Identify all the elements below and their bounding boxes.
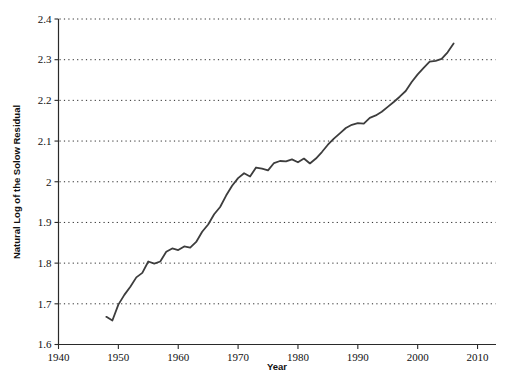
y-tick-label: 1.7: [38, 298, 52, 310]
x-axis-title: Year: [267, 361, 287, 372]
y-tick-label: 1.6: [38, 338, 52, 350]
y-tick-label: 1.9: [38, 216, 52, 228]
x-tick-label: 1990: [347, 351, 370, 363]
y-tick-label: 2.3: [38, 53, 52, 65]
y-axis-title: Natural Log of the Solow Residual: [11, 105, 22, 259]
x-tick-label: 1980: [287, 351, 310, 363]
x-tick-label: 1950: [107, 351, 130, 363]
y-tick-label: 2: [46, 176, 52, 188]
x-tick-label: 1960: [167, 351, 190, 363]
y-tick-label: 1.8: [38, 257, 52, 269]
chart-canvas: 1.61.71.81.922.12.22.32.4 19401950196019…: [0, 0, 512, 384]
x-tick-label: 1940: [48, 351, 71, 363]
solow-residual-chart-figure: 1.61.71.81.922.12.22.32.4 19401950196019…: [0, 0, 512, 384]
y-tick-label: 2.4: [38, 13, 52, 25]
x-tick-label: 2000: [407, 351, 430, 363]
y-tick-label: 2.1: [38, 135, 52, 147]
x-tick-label: 1970: [227, 351, 250, 363]
chart-background: [0, 0, 512, 384]
x-tick-label: 2010: [467, 351, 490, 363]
y-tick-label: 2.2: [38, 94, 52, 106]
